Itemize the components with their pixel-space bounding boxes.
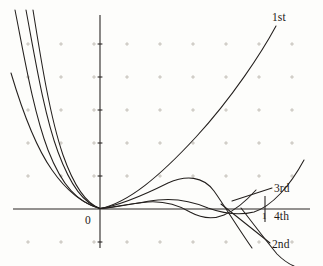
- leader-line-3rd: [232, 188, 272, 201]
- figure-container: 1st 3rd 4th 2nd 0 1: [0, 0, 323, 266]
- leader-line-2nd: [221, 204, 270, 243]
- curve-series-group: [11, 10, 304, 266]
- curve-4th: [33, 10, 256, 218]
- curve-1st: [15, 10, 276, 209]
- origin-label: 0: [85, 215, 91, 227]
- curve-2nd: [26, 10, 252, 248]
- series-label-4th: 4th: [274, 211, 289, 223]
- series-label-1st: 1st: [272, 12, 286, 24]
- series-label-3rd: 3rd: [274, 183, 290, 195]
- x-tick-label-1: 1: [262, 212, 267, 221]
- series-label-2nd: 2nd: [272, 239, 290, 251]
- approximation-curves-plot: [0, 0, 323, 266]
- grid-marks: [26, 42, 294, 244]
